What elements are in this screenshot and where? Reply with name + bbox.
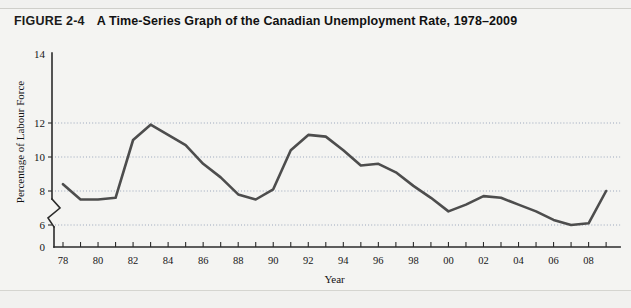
- x-tick-label-08: 08: [583, 255, 594, 266]
- unemployment-rate-series: [63, 125, 606, 225]
- y-tick-label-0: 0: [40, 241, 46, 253]
- figure-root: FIGURE 2-4 A Time-Series Graph of the Ca…: [0, 0, 631, 308]
- x-tick-label-78: 78: [58, 255, 69, 266]
- x-tick-label-90: 90: [268, 255, 279, 266]
- x-tick-label-96: 96: [373, 255, 384, 266]
- x-tick-label-98: 98: [408, 255, 419, 266]
- x-tick-label-80: 80: [93, 255, 104, 266]
- x-tick-label-92: 92: [303, 255, 314, 266]
- x-tick-label-82: 82: [128, 255, 139, 266]
- figure-caption-text: A Time-Series Graph of the Canadian Unem…: [97, 14, 517, 28]
- x-axis-title: Year: [324, 273, 345, 284]
- figure-title: FIGURE 2-4 A Time-Series Graph of the Ca…: [14, 14, 517, 34]
- y-axis-title: Percentage of Labour Force: [14, 81, 26, 204]
- y-axis-break-zigzag: [48, 199, 60, 227]
- x-tick-label-88: 88: [233, 255, 244, 266]
- figure-number: FIGURE 2-4: [14, 14, 85, 28]
- chart-plot-area: 0681012147880828486889092949698000204060…: [0, 36, 631, 284]
- y-tick-label-10: 10: [34, 151, 46, 163]
- x-tick-label-94: 94: [338, 255, 349, 266]
- x-tick-label-86: 86: [198, 255, 209, 266]
- x-tick-label-04: 04: [513, 255, 524, 266]
- source-note: [14, 301, 614, 308]
- unemployment-line-chart: 0681012147880828486889092949698000204060…: [0, 36, 631, 284]
- y-tick-label-14: 14: [34, 48, 46, 60]
- x-tick-label-02: 02: [478, 255, 489, 266]
- x-tick-label-84: 84: [163, 255, 174, 266]
- y-tick-label-12: 12: [34, 117, 45, 129]
- y-tick-label-8: 8: [40, 185, 46, 197]
- y-tick-label-6: 6: [40, 219, 46, 231]
- x-tick-label-06: 06: [548, 255, 559, 266]
- x-tick-label-00: 00: [443, 255, 454, 266]
